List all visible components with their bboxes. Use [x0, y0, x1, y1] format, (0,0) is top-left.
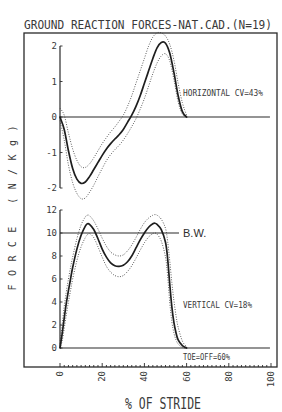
ground-reaction-forces-chart: GROUND REACTION FORCES-NAT.CAD.(N=19) FO…	[0, 0, 282, 412]
horizontal-y-tick-label: 1	[52, 77, 57, 87]
x-tick-label: 80	[224, 371, 234, 382]
vertical-y-tick-label: 6	[52, 274, 57, 284]
toe-off-annotation: TOE=OFF=60%	[183, 353, 230, 362]
x-tick-label: 100	[266, 371, 276, 387]
vertical-upper-sd-curve	[60, 215, 187, 347]
horizontal-force-panel: 2 1 0 -1 -2 HORIZONTAL CV=43%	[46, 32, 270, 199]
vertical-y-tick-label: 2	[52, 320, 57, 330]
horizontal-mean-curve	[60, 42, 187, 184]
vertical-y-tick-label: 8	[52, 251, 57, 261]
horizontal-upper-sd-curve	[60, 32, 187, 167]
vertical-lower-sd-curve	[60, 233, 187, 348]
horizontal-y-tick-label: -2	[46, 183, 57, 193]
vertical-y-tick-label: 10	[46, 228, 57, 238]
x-tick-label: 0	[55, 371, 65, 376]
y-axis-label: FORCE (N/Kg)	[7, 126, 18, 291]
vertical-y-tick-label: 4	[52, 297, 57, 307]
horizontal-y-tick-label: 2	[52, 41, 57, 51]
x-tick-label: 40	[139, 371, 149, 382]
plot-frame	[24, 33, 277, 367]
vertical-force-panel: 12 10 8 6 4 2 0 B.W. VERTICAL CV=18% TOE…	[46, 205, 270, 362]
horizontal-panel-label: HORIZONTAL CV=43%	[183, 89, 263, 98]
horizontal-y-tick-label: 0	[52, 112, 57, 122]
horizontal-y-tick-label: -1	[46, 148, 57, 158]
vertical-y-tick-label: 12	[46, 205, 57, 215]
horizontal-lower-sd-curve	[60, 54, 187, 199]
x-tick-label: 20	[97, 371, 107, 382]
vertical-panel-label: VERTICAL CV=18%	[183, 301, 252, 310]
vertical-y-tick-label: 0	[52, 343, 57, 353]
x-axis-label: % OF STRIDE	[125, 394, 201, 412]
chart-title: GROUND REACTION FORCES-NAT.CAD.(N=19)	[24, 17, 272, 32]
x-axis: 0 20 40 60 80 100 % OF STRIDE	[55, 363, 276, 412]
x-tick-label: 60	[182, 371, 192, 382]
body-weight-label: B.W.	[183, 227, 206, 239]
